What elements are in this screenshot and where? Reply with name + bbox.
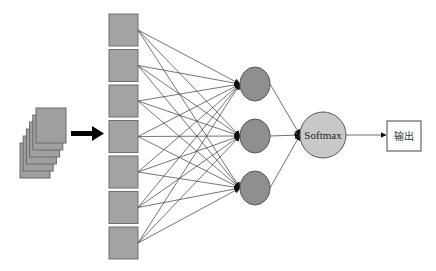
input-node — [109, 50, 138, 82]
softmax-label: Softmax — [304, 129, 342, 141]
connection-edge — [138, 188, 240, 243]
connection-edge — [270, 135, 300, 188]
document-stack-icon — [20, 108, 66, 178]
connection-edge — [138, 84, 240, 172]
connection-edge — [138, 136, 240, 172]
input-node — [109, 14, 138, 46]
connection-edge — [138, 84, 240, 101]
connection-edge — [138, 30, 240, 136]
connection-edge — [138, 84, 240, 137]
connection-edge — [138, 66, 240, 85]
hidden-to-softmax-connections — [270, 84, 300, 188]
connection-edge — [138, 101, 240, 136]
connection-edge — [270, 84, 300, 135]
input-node — [109, 85, 138, 117]
output-label: 输出 — [394, 130, 414, 142]
thick-right-arrow-icon — [71, 126, 104, 141]
neural-network-diagram: Softmax 输出 — [0, 0, 436, 271]
connection-edge — [138, 30, 240, 188]
hidden-layer — [240, 67, 270, 205]
connection-edge — [270, 135, 300, 136]
connection-edge — [138, 136, 240, 208]
stack-page — [36, 108, 66, 143]
connection-edge — [138, 84, 240, 243]
input-node — [109, 192, 138, 224]
hidden-node — [240, 119, 270, 153]
softmax-node: Softmax — [300, 112, 346, 158]
input-node — [109, 156, 138, 188]
connection-edge — [138, 136, 240, 137]
hidden-node — [240, 171, 270, 205]
input-layer — [109, 14, 138, 259]
connection-edge — [138, 66, 240, 189]
input-node — [109, 227, 138, 259]
connection-edge — [138, 84, 240, 208]
output-node: 输出 — [387, 121, 421, 151]
input-to-hidden-connections — [138, 30, 240, 243]
hidden-node — [240, 67, 270, 101]
input-node — [109, 121, 138, 153]
connection-edge — [138, 188, 240, 208]
